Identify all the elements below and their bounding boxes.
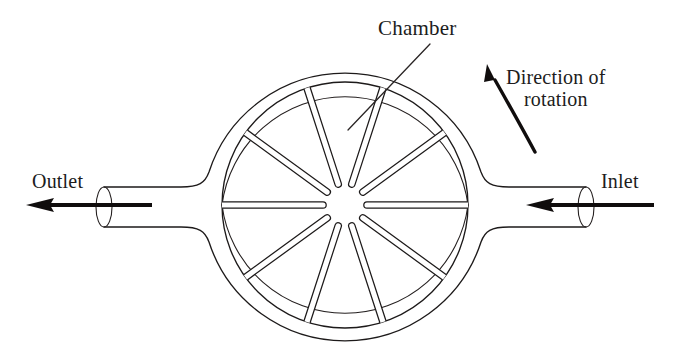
label-chamber: Chamber bbox=[378, 17, 456, 41]
vane-slot bbox=[222, 202, 326, 208]
outlet-flow-arrow bbox=[26, 198, 152, 212]
vane-slot bbox=[244, 215, 331, 280]
label-direction-of-rotation: Direction of rotation bbox=[506, 66, 606, 111]
label-inlet: Inlet bbox=[601, 170, 639, 192]
vane-slot bbox=[360, 130, 447, 195]
label-direction-line2: rotation bbox=[506, 88, 606, 110]
vane-group bbox=[222, 87, 468, 323]
vane-slot bbox=[360, 215, 447, 280]
chamber-leader-line bbox=[348, 44, 430, 130]
rotary-pump-diagram: Chamber Direction of rotation Outlet Inl… bbox=[0, 0, 678, 362]
casing-lower-profile bbox=[104, 227, 586, 341]
inlet-arrow-head bbox=[526, 198, 554, 212]
vane-slot bbox=[244, 130, 331, 195]
label-outlet: Outlet bbox=[32, 170, 83, 192]
inlet-flow-arrow bbox=[526, 198, 654, 212]
vane-slot bbox=[349, 87, 386, 187]
label-direction-line1: Direction of bbox=[506, 66, 606, 88]
casing-inner-arc-bottom bbox=[222, 205, 468, 313]
vane-slot bbox=[304, 87, 341, 187]
vane-slot bbox=[364, 202, 468, 208]
vane-slot bbox=[304, 223, 341, 323]
outlet-arrow-head bbox=[26, 198, 54, 212]
diagram-canvas bbox=[0, 0, 678, 362]
vane-slot bbox=[349, 223, 386, 323]
casing-inner-arc-top bbox=[222, 97, 468, 205]
